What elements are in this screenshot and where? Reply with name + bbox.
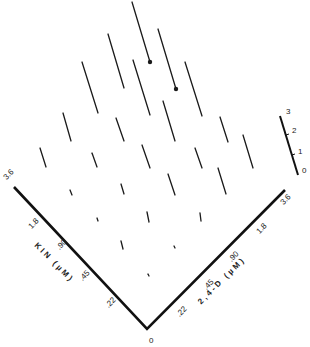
needle-plot-figure xyxy=(0,0,310,347)
scale-tick-2: 2 xyxy=(292,126,296,135)
bar xyxy=(121,241,123,249)
bar xyxy=(243,135,253,168)
bar xyxy=(92,153,97,167)
marker-dot-group xyxy=(148,60,178,91)
bar xyxy=(158,29,176,89)
scale-tick-3: 3 xyxy=(286,107,290,116)
bar xyxy=(82,62,98,113)
bar xyxy=(148,274,149,276)
bar xyxy=(168,174,175,195)
scale-tick-0: 0 xyxy=(302,166,306,175)
bar xyxy=(200,213,201,221)
bar xyxy=(195,148,202,168)
bar xyxy=(218,168,226,194)
bar xyxy=(220,117,228,142)
scale-tick-1: 1 xyxy=(298,147,302,156)
bar xyxy=(132,2,150,62)
bar xyxy=(40,148,46,167)
bar xyxy=(142,145,150,168)
bar xyxy=(116,118,124,141)
bar xyxy=(97,218,98,221)
bar xyxy=(163,101,175,141)
marker-dot xyxy=(148,60,152,64)
bar xyxy=(133,60,150,115)
bar-group xyxy=(40,2,253,276)
bar xyxy=(147,212,149,222)
origin-label: 0 xyxy=(149,336,153,345)
marker-dot xyxy=(174,87,178,91)
bar xyxy=(174,246,175,248)
scale-bar xyxy=(280,116,298,175)
bar xyxy=(108,34,124,88)
bar xyxy=(63,113,71,141)
bar xyxy=(70,190,72,195)
bar xyxy=(121,184,124,194)
bar xyxy=(185,62,202,116)
